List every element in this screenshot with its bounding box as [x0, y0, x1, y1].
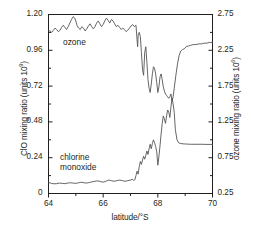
- tick-left-0-96: 0.96: [9, 45, 43, 54]
- tick-right-0-25: 0.25: [218, 188, 252, 197]
- right-axis-title-close: ): [232, 57, 241, 60]
- tick-left-0-72: 0.72: [9, 81, 43, 90]
- tick-bottom-68: 68: [146, 199, 170, 208]
- chart-figure: ClO mixing ratio (units 109) ozone mixin…: [0, 0, 261, 232]
- series-label-chlorine-line1: chlorine: [60, 152, 96, 162]
- tick-bottom-64: 64: [37, 199, 61, 208]
- tick-left-1-20: 1.20: [9, 9, 43, 18]
- tick-left-0-48: 0.48: [9, 116, 43, 125]
- tick-bottom-66: 66: [91, 199, 115, 208]
- tick-left-0: 0: [9, 188, 43, 197]
- series-label-ozone: ozone: [63, 37, 86, 47]
- tick-left-0-24: 0.24: [9, 152, 43, 161]
- tick-bottom-70: 70: [201, 199, 225, 208]
- x-axis-title: latitude/°S: [48, 212, 212, 222]
- tick-right-2-25: 2.25: [218, 45, 252, 54]
- series-label-chlorine-monoxide: chlorine monoxide: [60, 152, 96, 172]
- right-axis-title-exponent: 6: [230, 60, 236, 63]
- tick-right-2-75: 2.75: [218, 9, 252, 18]
- tick-right-1-25: 1.25: [218, 116, 252, 125]
- tick-right-1-75: 1.75: [218, 81, 252, 90]
- right-axis-title-text: ozone mixing ratio (units 10: [232, 63, 241, 160]
- bottom-axis-ticks: [49, 194, 213, 198]
- left-axis-title-exponent: 9: [18, 64, 24, 67]
- left-axis-title-close: ): [20, 61, 29, 64]
- series-label-chlorine-line2: monoxide: [60, 162, 96, 172]
- tick-right-0-75: 0.75: [218, 152, 252, 161]
